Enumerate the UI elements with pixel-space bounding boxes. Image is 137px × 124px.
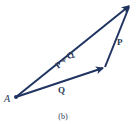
diagram-canvas: A P + Q Q P (b) [0,0,137,124]
point-a-label: A [3,93,11,104]
figure-caption: (b) [58,112,68,121]
vector-addition-diagram: A P + Q Q P (b) [0,0,137,124]
point-a-dot [14,95,18,99]
vector-q-label: Q [58,85,65,95]
vector-p-label: P [117,37,123,47]
